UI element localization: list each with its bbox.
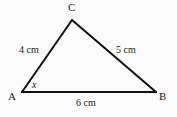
angle-label-x: x	[32, 80, 36, 90]
triangle-diagram: C A B 4 cm 5 cm 6 cm x	[0, 0, 177, 117]
vertex-label-c: C	[68, 2, 75, 13]
vertex-label-a: A	[8, 91, 16, 102]
triangle-side-bc	[72, 20, 156, 92]
triangle-side-ac	[22, 20, 72, 92]
vertex-label-b: B	[159, 91, 166, 102]
side-length-label-bc: 5 cm	[116, 45, 136, 55]
side-length-label-ab: 6 cm	[76, 98, 96, 108]
side-length-label-ac: 4 cm	[19, 45, 39, 55]
